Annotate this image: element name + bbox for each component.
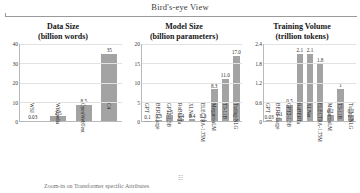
y-tick-label: 30 xyxy=(13,61,19,67)
chart-title-training-volume: Training Volume (trillion tokens) xyxy=(246,20,358,41)
x-tick-slot: MegatronLM xyxy=(208,101,219,169)
y-tick-label: 15 xyxy=(135,61,141,67)
gridline xyxy=(264,44,356,45)
bar-value-label: 17.0 xyxy=(232,49,241,55)
x-axis-model-size: GPTBERT-LargeGPT2-1.5BRoBERTaXLNetELECTR… xyxy=(141,101,242,169)
x-tick-label: BERT-Large xyxy=(155,103,161,129)
x-tick-label: XLNet xyxy=(306,103,312,117)
x-tick-label: ELECTRA-1.75M xyxy=(200,103,206,142)
page-title: Bird's-eye View xyxy=(0,2,360,12)
gridline xyxy=(142,63,242,64)
x-tick-slot: RoBERTa xyxy=(175,101,186,169)
x-tick-slot: RoBERTa xyxy=(294,101,304,169)
x-tick-slot: GPT2-1.5B xyxy=(163,101,174,169)
gridline xyxy=(142,83,242,84)
x-tick-label: Turing-NLG xyxy=(348,103,354,129)
gridline xyxy=(264,63,356,64)
x-tick-slot: GPT xyxy=(263,101,273,169)
x-tick-label: Turing-NLG xyxy=(233,103,239,129)
chart-title-main: Training Volume xyxy=(273,22,330,31)
x-tick-label: BERT-Large xyxy=(275,103,281,129)
x-tick-slot: Wikipedia xyxy=(45,101,71,169)
y-tick-label: 0 xyxy=(15,119,18,125)
x-tick-label: GPT2-1.5B xyxy=(286,103,292,127)
y-tick-label: 10 xyxy=(135,80,141,86)
x-tick-slot: Turing-NLG xyxy=(231,101,242,169)
chart-panel-model-size: Model Size (billion parameters) 20151050… xyxy=(124,20,244,175)
gridline xyxy=(142,44,242,45)
x-tick-slot: ELECTRA-1.75M xyxy=(315,101,325,169)
y-tick-label: 40 xyxy=(13,41,19,47)
x-tick-slot: BERT-Large xyxy=(152,101,163,169)
y-tick-label: 20 xyxy=(13,80,19,86)
x-tick-slot: Turing-NLG xyxy=(346,101,356,169)
x-tick-label: OpenWebText xyxy=(80,103,86,133)
x-axis-training-volume: GPTBERT-LargeGPT2-1.5BRoBERTaXLNetELECTR… xyxy=(263,101,356,169)
bar-value-label: 2.1 xyxy=(307,47,313,53)
y-axis-data-size: 403020100 xyxy=(2,44,19,122)
gridline xyxy=(20,44,122,45)
gridline xyxy=(264,83,356,84)
y-tick-label: 0 xyxy=(259,119,262,125)
chart-panel-training-volume: Training Volume (trillion tokens) 2.41.8… xyxy=(246,20,358,175)
x-tick-slot: XLNet xyxy=(304,101,314,169)
y-tick-label: 0.6 xyxy=(255,100,262,106)
x-tick-label: RoBERTa xyxy=(296,103,302,124)
y-tick-label: 2.4 xyxy=(255,41,262,47)
chart-title-data-size: Data Size (billion words) xyxy=(2,20,124,41)
x-tick-label: GPT xyxy=(265,103,271,113)
x-tick-label: MegatronLM xyxy=(211,103,217,131)
x-tick-label: XLNet xyxy=(188,103,194,117)
bar-value-label: 1.8 xyxy=(317,57,323,63)
header-divider xyxy=(5,16,357,17)
footer-note: Zoom-in on Transformer specific Attribut… xyxy=(44,183,149,189)
x-tick-label: T5-11B xyxy=(222,103,228,119)
x-tick-slot: WSJ xyxy=(19,101,45,169)
gridline xyxy=(20,83,122,84)
chart-title-sub: (trillion tokens) xyxy=(246,32,358,42)
x-tick-slot: GPT xyxy=(141,101,152,169)
x-tick-label: WSJ xyxy=(29,103,35,113)
y-tick-label: 0 xyxy=(137,119,140,125)
chart-panel-data-size: Data Size (billion words) 403020100 0.03… xyxy=(2,20,124,175)
bar-value-label: 2.1 xyxy=(297,47,303,53)
x-tick-slot: T5-11B xyxy=(220,101,231,169)
chart-title-main: Model Size xyxy=(165,22,203,31)
x-tick-slot: MegatronLM xyxy=(325,101,335,169)
x-tick-slot: OpenWebText xyxy=(71,101,97,169)
y-tick-label: 20 xyxy=(135,41,141,47)
y-axis-training-volume: 2.41.81.20.60 xyxy=(246,44,263,122)
x-tick-slot: XLNet xyxy=(186,101,197,169)
x-tick-slot: GPT2-1.5B xyxy=(284,101,294,169)
y-tick-label: 1.2 xyxy=(255,80,262,86)
x-tick-label: C4 xyxy=(106,103,112,109)
x-tick-slot: T5-11B xyxy=(335,101,345,169)
y-tick-label: 10 xyxy=(13,100,19,106)
x-tick-slot: C4 xyxy=(96,101,122,169)
x-axis-data-size: WSJWikipediaOpenWebTextC4 xyxy=(19,101,122,169)
chart-title-main: Data Size xyxy=(47,22,79,31)
y-axis-model-size: 20151050 xyxy=(124,44,141,122)
x-tick-label: ELECTRA-1.75M xyxy=(317,103,323,142)
slide-header: Bird's-eye View xyxy=(0,0,360,20)
bar-value-label: 11.0 xyxy=(221,72,230,78)
bar-value-label: 35 xyxy=(107,47,112,53)
x-tick-label: RoBERTa xyxy=(177,103,183,124)
x-tick-label: GPT xyxy=(144,103,150,113)
x-tick-slot: BERT-Large xyxy=(273,101,283,169)
x-tick-label: MegatronLM xyxy=(327,103,333,131)
chart-title-model-size: Model Size (billion parameters) xyxy=(124,20,244,41)
slide-corner-mark: ☷ xyxy=(178,174,183,181)
y-tick-label: 1.8 xyxy=(255,61,262,67)
x-tick-slot: ELECTRA-1.75M xyxy=(197,101,208,169)
y-tick-label: 5 xyxy=(137,100,140,106)
chart-title-sub: (billion parameters) xyxy=(124,32,244,42)
x-tick-label: Wikipedia xyxy=(55,103,61,124)
gridline xyxy=(20,63,122,64)
x-tick-label: T5-11B xyxy=(337,103,343,119)
x-tick-label: GPT2-1.5B xyxy=(166,103,172,127)
chart-title-sub: (billion words) xyxy=(2,32,124,42)
